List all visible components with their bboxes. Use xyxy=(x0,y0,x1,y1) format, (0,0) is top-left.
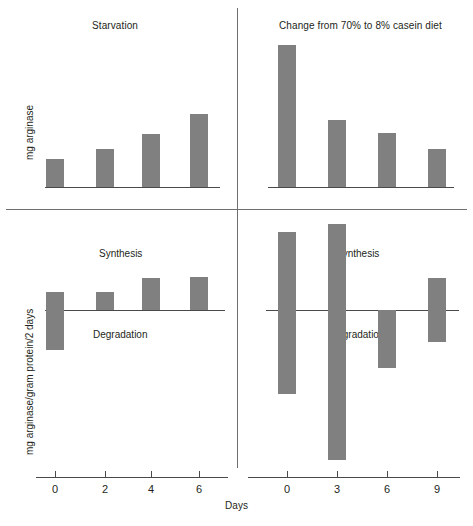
tick-right-2 xyxy=(387,471,388,477)
bar-br-3 xyxy=(428,278,446,342)
baseline-top-left xyxy=(45,187,220,188)
bar-tr-2 xyxy=(378,133,396,187)
tick-label-right-3: 9 xyxy=(427,483,447,495)
panel-title-casein-diet: Change from 70% to 8% casein diet xyxy=(279,20,442,31)
bar-tr-0 xyxy=(278,45,296,187)
tick-label-right-1: 3 xyxy=(327,483,347,495)
bar-br-0 xyxy=(278,232,296,394)
baseline-top-right xyxy=(268,187,454,188)
bar-bl-2 xyxy=(142,278,160,310)
tick-label-right-0: 0 xyxy=(277,483,297,495)
zero-line-bottom-left xyxy=(45,310,225,311)
region-label-degradation-left: Degradation xyxy=(93,329,147,340)
x-axis-right xyxy=(248,477,460,478)
tick-left-2 xyxy=(151,471,152,477)
tick-left-1 xyxy=(105,471,106,477)
y-axis-title-top: mg arginase xyxy=(24,105,35,160)
tick-label-left-1: 2 xyxy=(95,483,115,495)
panel-title-starvation: Starvation xyxy=(92,20,138,31)
tick-right-1 xyxy=(337,471,338,477)
tick-right-3 xyxy=(437,471,438,477)
x-axis-title: Days xyxy=(0,500,473,511)
tick-label-right-2: 6 xyxy=(377,483,397,495)
tick-right-0 xyxy=(287,471,288,477)
region-label-synthesis-left: Synthesis xyxy=(99,248,142,259)
figure-arginase-panels: Starvation mg arginase Change from 70% t… xyxy=(0,0,473,526)
bar-tl-0 xyxy=(46,159,64,187)
x-axis-left xyxy=(36,477,228,478)
tick-left-3 xyxy=(199,471,200,477)
bar-bl-3 xyxy=(190,277,208,310)
bar-tl-3 xyxy=(190,114,208,187)
tick-label-left-2: 4 xyxy=(141,483,161,495)
tick-label-left-0: 0 xyxy=(45,483,65,495)
y-axis-title-bottom: mg arginase/gram protein/2 days xyxy=(24,309,35,455)
bar-tl-2 xyxy=(142,134,160,187)
bar-tr-1 xyxy=(328,120,346,187)
tick-left-0 xyxy=(55,471,56,477)
bar-tl-1 xyxy=(96,149,114,187)
bar-tr-3 xyxy=(428,149,446,187)
tick-label-left-3: 6 xyxy=(189,483,209,495)
bar-bl-1 xyxy=(96,292,114,310)
bar-bl-0 xyxy=(46,292,64,350)
bar-br-2 xyxy=(378,310,396,368)
bar-br-1 xyxy=(328,224,346,460)
